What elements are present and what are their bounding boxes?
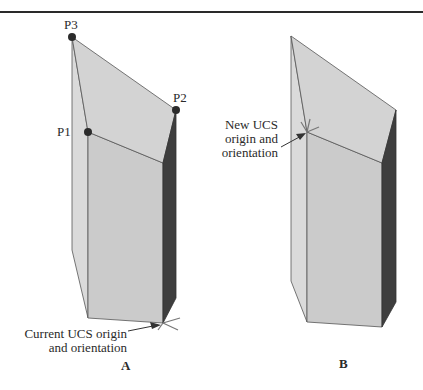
figure-a-caption: A (121, 359, 130, 373)
figure-a-callout-line2: and orientation (20, 341, 127, 355)
figure-b-front-face (307, 132, 382, 327)
figure-b-caption: B (339, 357, 348, 371)
label-p2: P2 (173, 91, 187, 105)
figure-b-callout-line2: origin and (215, 132, 278, 146)
label-p3: P3 (64, 18, 78, 32)
figure-a-prism (68, 33, 180, 331)
figure-a-front-face (88, 132, 163, 323)
point-p1 (84, 128, 92, 136)
point-p3 (68, 33, 76, 41)
figure-a-callout-line1: Current UCS origin (20, 327, 127, 341)
figure-b-callout-line1: New UCS (215, 118, 278, 132)
label-p1: P1 (57, 125, 71, 139)
point-p2 (172, 106, 180, 114)
figure-b-callout-line3: orientation (215, 146, 278, 160)
figure-b-prism (281, 36, 396, 327)
